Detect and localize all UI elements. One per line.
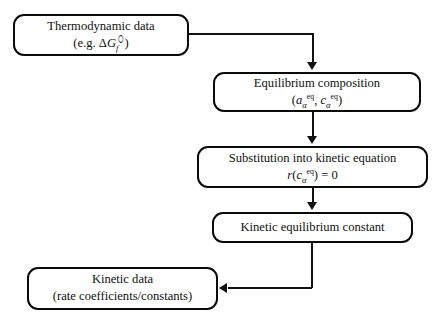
node-equilibrium-composition[interactable]: Equilibrium composition (aαeq, cαeq) [213,72,421,112]
node-equilibrium-composition-line2: (aαeq, cαeq) [292,93,342,109]
rate-concentration-superscript: eq [306,166,313,175]
thermo-formula-symbol: G [107,36,116,50]
thermo-formula-prefix: (e.g. Δ [73,36,107,50]
thermo-formula-suffix: ) [124,36,128,50]
node-kinetic-data-line1: Kinetic data [92,272,153,288]
equilibrium-concentration-subscript: α [326,99,331,109]
node-kinetic-equilibrium-constant-line1: Kinetic equilibrium constant [240,220,384,236]
equilibrium-paren-close: ) [338,93,342,107]
node-equilibrium-composition-line1: Equilibrium composition [254,76,380,92]
rate-equals-zero: = 0 [318,168,338,182]
node-kinetic-equilibrium-constant[interactable]: Kinetic equilibrium constant [212,212,413,243]
node-thermodynamic-data-line1: Thermodynamic data [47,19,154,35]
node-thermodynamic-data[interactable]: Thermodynamic data (e.g. ΔGf⬯) [13,14,189,56]
edge-constant-to-kinetic-data-horizontal [228,287,312,289]
node-kinetic-data-line2: (rate coefficients/constants) [53,289,192,305]
edge-constant-to-kinetic-data-vertical [311,243,313,288]
arrow-down-icon-kinetic-constant [307,202,317,210]
equilibrium-activity-subscript: α [302,99,307,109]
arrow-left-icon-kinetic-data [219,283,227,293]
arrow-down-icon-substitution [307,136,317,144]
node-substitution-kinetic-equation[interactable]: Substitution into kinetic equation r(cαe… [197,146,428,188]
thermo-formula-subscript: f [116,42,118,52]
node-substitution-kinetic-equation-line1: Substitution into kinetic equation [229,151,397,167]
edge-thermo-to-equilibrium-vertical [312,33,314,64]
equilibrium-concentration-superscript: eq [331,91,338,100]
edge-equilibrium-to-substitution-vertical [312,112,314,138]
flowchart-canvas: Thermodynamic data (e.g. ΔGf⬯) Equilibri… [0,0,438,321]
arrow-down-icon-equilibrium [307,62,317,70]
edge-thermo-to-equilibrium-horizontal [189,33,314,35]
node-kinetic-data[interactable]: Kinetic data (rate coefficients/constant… [27,267,218,310]
rate-concentration-subscript: α [302,174,307,184]
node-thermodynamic-data-line2: (e.g. ΔGf⬯) [73,36,128,52]
node-substitution-kinetic-equation-line2: r(cαeq) = 0 [287,168,337,184]
